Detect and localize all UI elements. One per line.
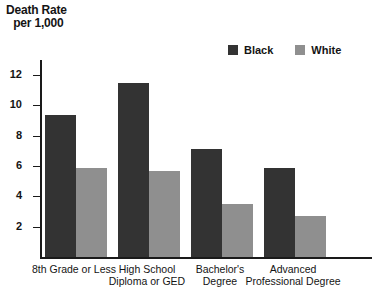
category-label-4-line-2: Professional Degree [238, 275, 348, 287]
bar-white-1 [76, 168, 107, 257]
bar-black-3 [191, 149, 222, 257]
chart-legend: Black White [228, 44, 341, 56]
bar-group-4 [264, 60, 326, 257]
legend-item-black: Black [228, 44, 273, 56]
y-tick-label-8: 8 [16, 129, 22, 141]
legend-label-white: White [311, 44, 341, 56]
chart-title-line-2: per 1,000 [6, 17, 67, 30]
bar-white-3 [222, 204, 253, 257]
legend-swatch-white [295, 45, 305, 55]
y-tick-8: 8 [33, 136, 40, 137]
x-axis-category-labels: 8th Grade or LessHigh SchoolDiploma or G… [40, 263, 372, 303]
y-tick-label-6: 6 [16, 159, 22, 171]
y-tick-6: 6 [33, 166, 40, 167]
chart-title: Death Rate per 1,000 [6, 4, 67, 30]
bar-black-4 [264, 168, 295, 257]
y-tick-label-2: 2 [16, 220, 22, 232]
bar-white-2 [149, 171, 180, 257]
category-label-4: AdvancedProfessional Degree [238, 263, 348, 287]
y-tick-10: 10 [33, 105, 40, 106]
bar-group-2 [118, 60, 180, 257]
y-tick-label-10: 10 [10, 98, 22, 110]
y-tick-2: 2 [33, 227, 40, 228]
bar-chart: Death Rate per 1,000 Black White 2468101… [0, 0, 381, 303]
x-axis-line [40, 257, 372, 259]
y-tick-4: 4 [33, 196, 40, 197]
legend-label-black: Black [244, 44, 273, 56]
legend-item-white: White [295, 44, 341, 56]
category-label-4-line-1: Advanced [238, 263, 348, 275]
plot-area: 24681012 [40, 60, 372, 259]
y-tick-12: 12 [33, 75, 40, 76]
bar-group-1 [45, 60, 107, 257]
bar-black-1 [45, 115, 76, 257]
bar-group-3 [191, 60, 253, 257]
y-tick-label-12: 12 [10, 68, 22, 80]
legend-swatch-black [228, 45, 238, 55]
bar-white-4 [295, 216, 326, 257]
y-tick-label-4: 4 [16, 189, 22, 201]
bar-black-2 [118, 83, 149, 257]
bar-series-container [42, 60, 372, 257]
